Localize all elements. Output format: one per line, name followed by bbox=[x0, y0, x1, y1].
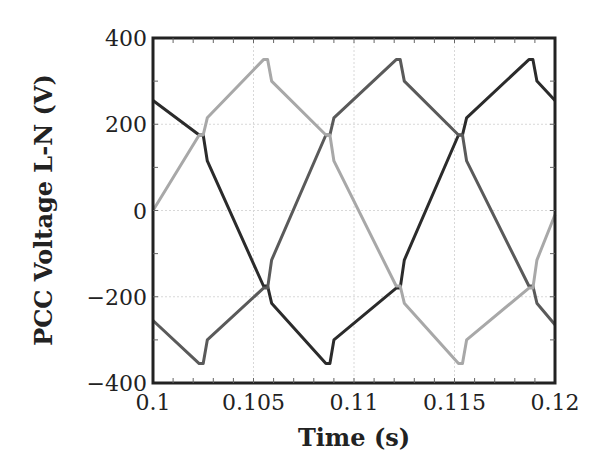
y-tick-label: −200 bbox=[87, 285, 147, 310]
y-axis-ticks: 4002000−200−400 bbox=[87, 26, 147, 396]
y-tick-label: −400 bbox=[87, 371, 147, 396]
y-tick-label: 400 bbox=[105, 26, 147, 51]
x-axis-ticks: 0.10.1050.110.1150.12 bbox=[136, 390, 580, 415]
y-tick-label: 0 bbox=[133, 199, 147, 224]
x-tick-label: 0.105 bbox=[222, 390, 285, 415]
voltage-chart: 0.10.1050.110.1150.12 4002000−200−400 Ti… bbox=[0, 0, 608, 475]
x-axis-label: Time (s) bbox=[298, 423, 410, 452]
y-axis-label: PCC Voltage L-N (V) bbox=[29, 74, 58, 346]
y-tick-label: 200 bbox=[105, 112, 147, 137]
x-tick-label: 0.12 bbox=[531, 390, 580, 415]
x-tick-label: 0.115 bbox=[423, 390, 486, 415]
x-tick-label: 0.11 bbox=[330, 390, 379, 415]
